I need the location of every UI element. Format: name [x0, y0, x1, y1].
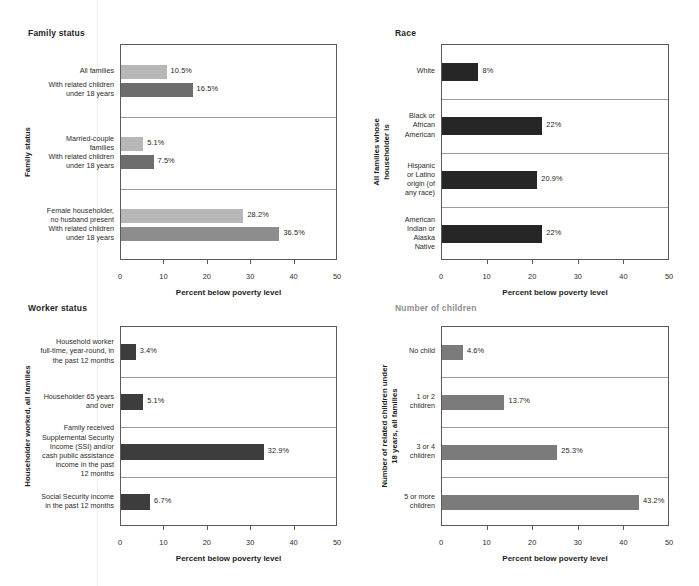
bar-value-label: 13.7%	[508, 396, 529, 405]
bar-value-label: 20.9%	[541, 174, 562, 183]
x-axis-tick-label: 50	[325, 272, 349, 281]
x-axis-tick-label: 30	[238, 538, 262, 547]
category-label: With related children under 18 years	[0, 80, 114, 98]
x-axis-tick-label: 10	[151, 538, 175, 547]
bar	[442, 495, 639, 510]
bar	[442, 345, 463, 360]
x-axis-title: Percent below poverty level	[441, 554, 669, 563]
x-axis-tick	[250, 526, 251, 530]
bar-value-label: 16.5%	[197, 84, 218, 93]
x-axis-tick	[532, 260, 533, 264]
x-axis-tick	[163, 526, 164, 530]
bar-value-label: 36.5%	[283, 228, 304, 237]
bar-value-label: 25.3%	[561, 446, 582, 455]
group-separator	[442, 427, 668, 428]
bar-value-label: 22%	[546, 120, 561, 129]
panel-worker-status: Worker status Householder worked, all fa…	[0, 293, 349, 586]
chart-family-status: 10.5%All families16.5%With related child…	[0, 0, 349, 293]
category-label: Household worker full-time, year-round, …	[0, 337, 114, 365]
category-label: All families	[0, 66, 114, 75]
x-axis-tick	[623, 260, 624, 264]
group-separator	[121, 477, 336, 478]
x-axis-title: Percent below poverty level	[120, 554, 337, 563]
bar	[442, 171, 537, 189]
bar-value-label: 32.9%	[268, 446, 289, 455]
x-axis-tick-label: 50	[657, 538, 681, 547]
x-axis-tick	[163, 260, 164, 264]
bar	[442, 117, 542, 135]
bar-value-label: 43.2%	[643, 496, 664, 505]
x-axis-tick-label: 50	[657, 272, 681, 281]
x-axis-tick-label: 40	[282, 272, 306, 281]
x-axis-tick-label: 40	[282, 538, 306, 547]
bar	[121, 344, 136, 360]
plot-area	[441, 326, 669, 526]
x-axis-tick-label: 40	[611, 538, 635, 547]
category-label: Female householder, no husband present	[0, 206, 114, 224]
x-axis-tick	[250, 260, 251, 264]
x-axis-tick-label: 20	[520, 272, 544, 281]
category-label: Householder 65 years and over	[0, 392, 114, 410]
bar-value-label: 7.5%	[158, 156, 175, 165]
x-axis-tick-label: 10	[151, 272, 175, 281]
category-label: Married-couple families	[0, 134, 114, 152]
x-axis-tick	[578, 260, 579, 264]
bar	[121, 227, 279, 241]
x-axis-tick-label: 10	[475, 538, 499, 547]
x-axis-tick-label: 40	[611, 272, 635, 281]
bar	[121, 83, 193, 97]
category-label: 5 or more children	[349, 492, 435, 510]
x-axis-tick-label: 0	[429, 538, 453, 547]
bar-value-label: 5.1%	[147, 396, 164, 405]
bar	[442, 225, 542, 243]
group-separator	[121, 189, 336, 190]
group-separator	[442, 477, 668, 478]
panel-number-of-children: Number of children Number of related chi…	[349, 293, 699, 586]
bar	[442, 395, 504, 410]
x-axis-tick	[207, 526, 208, 530]
category-label: American Indian or Alaska Native	[349, 215, 435, 252]
x-axis-tick	[487, 260, 488, 264]
x-axis-tick-label: 10	[475, 272, 499, 281]
bar	[121, 137, 143, 151]
panel-race: Race All families whose householder is 8…	[349, 0, 699, 293]
bar-value-label: 8%	[482, 66, 493, 75]
bar	[121, 444, 264, 460]
group-separator	[442, 377, 668, 378]
x-axis-tick	[294, 526, 295, 530]
x-axis-tick-label: 50	[325, 538, 349, 547]
bar	[442, 63, 478, 81]
bar-value-label: 6.7%	[154, 496, 171, 505]
bar-value-label: 4.6%	[467, 346, 484, 355]
bar	[121, 155, 154, 169]
group-separator	[442, 207, 668, 208]
category-label: 1 or 2 children	[349, 392, 435, 410]
x-axis-tick-label: 0	[108, 272, 132, 281]
x-axis-tick-label: 20	[195, 272, 219, 281]
group-separator	[121, 427, 336, 428]
x-axis-tick	[578, 526, 579, 530]
category-label: No child	[349, 346, 435, 355]
category-label: Black or African American	[349, 111, 435, 139]
group-separator	[442, 153, 668, 154]
x-axis-tick-label: 20	[520, 538, 544, 547]
bar-value-label: 28.2%	[247, 210, 268, 219]
bar	[442, 445, 557, 460]
x-axis-tick-label: 30	[566, 272, 590, 281]
x-axis-tick	[487, 526, 488, 530]
x-axis-tick	[532, 526, 533, 530]
bar-value-label: 10.5%	[171, 66, 192, 75]
x-axis-tick-label: 20	[195, 538, 219, 547]
chart-race: 8%White22%Black or African American20.9%…	[349, 0, 699, 293]
plot-area	[120, 326, 337, 526]
bar	[121, 394, 143, 410]
bar-value-label: 5.1%	[147, 138, 164, 147]
group-separator	[121, 117, 336, 118]
x-axis-tick-label: 30	[566, 538, 590, 547]
category-label: Social Security income in the past 12 mo…	[0, 492, 114, 510]
panel-family-status: Family status Family status 10.5%All fam…	[0, 0, 349, 293]
category-label: With related children under 18 years	[0, 152, 114, 170]
group-separator	[442, 99, 668, 100]
bar-value-label: 22%	[546, 228, 561, 237]
category-label: Hispanic or Latino origin (of any race)	[349, 161, 435, 198]
